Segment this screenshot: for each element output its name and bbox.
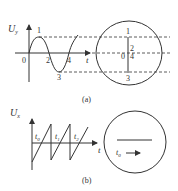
a-screen-label-4: 4 — [130, 52, 134, 61]
a-screen-label-0: 0 — [121, 52, 125, 61]
b-time-label-0: t0 — [35, 132, 40, 142]
a-screen-label-3: 3 — [126, 74, 130, 83]
b-caption: (b) — [82, 176, 92, 185]
b-time-label-1: t1 — [55, 132, 60, 142]
a-y-label: Uy — [8, 23, 18, 35]
figure-b: Ux t0 t1 t2 t t0 (b) — [10, 107, 166, 185]
b-spot-label: t0 — [116, 148, 121, 158]
oscilloscope-diagram: Uy 1 0 2 3 4 t 1 2 0 4 3 (a) Ux t0 t1 t2… — [0, 0, 178, 191]
a-screen-label-1: 1 — [126, 27, 130, 36]
b-y-label: Ux — [10, 107, 20, 119]
a-point-4: 4 — [67, 56, 71, 65]
b-x-label: t — [98, 145, 101, 155]
a-point-3: 3 — [57, 73, 61, 82]
a-point-2: 2 — [46, 56, 50, 65]
b-screen — [104, 111, 166, 173]
a-x-label: t — [86, 55, 89, 65]
b-time-label-2: t2 — [74, 132, 79, 142]
a-origin-label: 0 — [22, 56, 26, 65]
a-point-1: 1 — [37, 26, 41, 35]
figure-a: Uy 1 0 2 3 4 t 1 2 0 4 3 (a) — [8, 21, 170, 104]
a-caption: (a) — [82, 95, 91, 104]
